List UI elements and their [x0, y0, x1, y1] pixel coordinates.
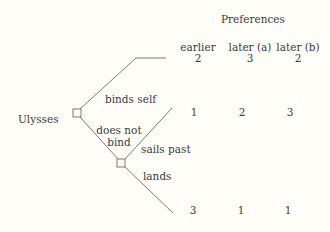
decision-node-root: [73, 109, 81, 117]
branch-label-sails-past: sails past: [141, 143, 191, 155]
preferences-title: Preferences: [221, 13, 285, 25]
outcome-sails-past-later-a: 2: [232, 106, 252, 118]
outcome-binds-self-later-b: 2: [288, 52, 308, 64]
decision-node-second: [117, 159, 125, 167]
outcome-sails-past-later-b: 3: [280, 106, 300, 118]
outcome-lands-later-a: 1: [231, 204, 251, 216]
branch-label-does-not-bind: does not bind: [95, 124, 143, 148]
outcome-lands-earlier: 3: [183, 204, 203, 216]
branch-label-lands: lands: [143, 170, 172, 182]
outcome-sails-past-earlier: 1: [184, 106, 204, 118]
outcome-binds-self-earlier: 2: [188, 52, 208, 64]
outcome-binds-self-later-a: 3: [240, 52, 260, 64]
root-player-label: Ulysses: [18, 113, 59, 125]
branch-label-binds-self: binds self: [105, 93, 156, 105]
outcome-lands-later-b: 1: [278, 204, 298, 216]
